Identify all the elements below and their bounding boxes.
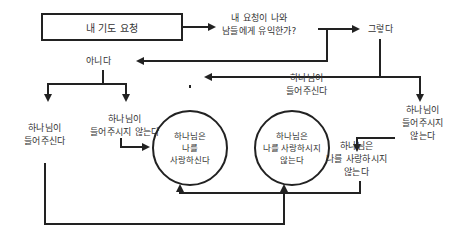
no-node: 아니다 [86, 55, 111, 68]
no-not-gives-line-1: 하나님이 [90, 113, 160, 126]
yes-label: 그렇다 [368, 23, 393, 36]
loves-line-2: 나를 [182, 142, 198, 154]
no-label: 아니다 [86, 55, 111, 68]
no-branch-gives-node: 하나님이 들어주신다 [24, 122, 66, 148]
no-gives-line-1: 하나님이 [24, 122, 66, 135]
question-node: 내 요청이 나와 남들에게 유익한가? [222, 12, 297, 38]
outcome-loves-circle: 하나님은 나를 사랑하신다 [152, 110, 228, 186]
loves-line-3: 사랑하신다 [170, 154, 210, 166]
not-loves-text-line-1: 하나님은 [326, 140, 387, 153]
not-loves-line-2: 나를 사랑하시지 [263, 142, 322, 154]
not-loves-line-1: 하나님은 [276, 130, 308, 142]
yes-not-gives-line-2: 들어주시지 [402, 117, 444, 130]
no-not-gives-line-2: 들어주시지 않는다 [90, 126, 160, 139]
yes-not-gives-line-1: 하나님이 [402, 104, 444, 117]
loves-line-1: 하나님은 [174, 130, 206, 142]
yes-branch-gives-node: 하나님이 들어주신다 [286, 72, 328, 98]
yes-branch-not-gives-node: 하나님이 들어주시지 않는다 [402, 104, 444, 143]
yes-not-gives-line-3: 않는다 [402, 130, 444, 143]
yes-gives-line-2: 들어주신다 [286, 85, 328, 98]
start-node-label: 내 기도 요청 [86, 20, 137, 35]
outcome-not-loves-circle: 하나님은 나를 사랑하시지 않는다 [254, 110, 330, 186]
not-loves-line-3: 않는다 [280, 154, 304, 166]
yes-node: 그렇다 [368, 23, 393, 36]
no-gives-line-2: 들어주신다 [24, 135, 66, 148]
not-loves-text-node: 하나님은 나를 사랑하시지 않는다 [326, 140, 387, 179]
start-node-prayer-request: 내 기도 요청 [41, 13, 183, 41]
question-line-2: 남들에게 유익한가? [222, 25, 297, 38]
no-branch-not-gives-node: 하나님이 들어주시지 않는다 [90, 113, 160, 139]
not-loves-text-line-3: 않는다 [326, 166, 387, 179]
yes-gives-line-1: 하나님이 [286, 72, 328, 85]
not-loves-text-line-2: 나를 사랑하시지 [326, 153, 387, 166]
question-line-1: 내 요청이 나와 [222, 12, 297, 25]
